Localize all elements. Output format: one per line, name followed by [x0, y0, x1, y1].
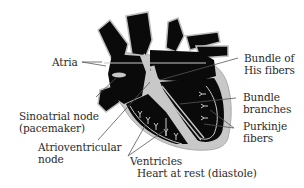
label-bundle-of-his: Bundle of His fibers	[244, 52, 295, 76]
label-branches-line2: branches	[243, 103, 291, 115]
superior-vena-cava	[98, 20, 128, 60]
label-purkinje-fibers: Purkinje fibers	[243, 120, 287, 144]
label-sa-line1: Sinoatrial node	[19, 110, 99, 122]
label-purkinje-line1: Purkinje	[243, 120, 287, 132]
label-av-line1: Atrioventricular	[38, 141, 122, 153]
aorta	[126, 12, 152, 56]
sinoatrial-node	[112, 73, 126, 78]
label-bundle-branches: Bundle branches	[243, 91, 291, 115]
label-his-line2: His fibers	[244, 64, 295, 76]
label-av-line2: node	[38, 153, 122, 165]
right-atrium	[108, 54, 146, 104]
label-sa-line2: (pacemaker)	[19, 122, 99, 134]
label-sinoatrial-node: Sinoatrial node (pacemaker)	[19, 110, 99, 134]
pulmonary-artery	[166, 18, 184, 52]
label-ventricles-text: Ventricles	[130, 155, 182, 167]
heart-conduction-diagram: Atria Sinoatrial node (pacemaker) Atriov…	[0, 0, 304, 188]
label-atrioventricular-node: Atrioventricular node	[38, 141, 122, 165]
label-ventricles: Ventricles	[130, 155, 182, 167]
caption-text: Heart at rest (diastole)	[137, 167, 257, 179]
label-atria-text: Atria	[52, 56, 78, 68]
atrioventricular-node	[150, 74, 155, 82]
diagram-caption: Heart at rest (diastole)	[137, 167, 257, 179]
label-branches-line1: Bundle	[243, 91, 291, 103]
label-purkinje-line2: fibers	[243, 132, 287, 144]
label-his-line1: Bundle of	[244, 52, 295, 64]
label-atria: Atria	[52, 56, 78, 68]
